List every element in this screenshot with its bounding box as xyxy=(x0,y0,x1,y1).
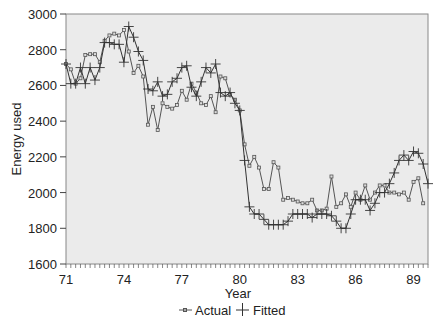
y-axis: 16001800200022002400260028003000 xyxy=(28,7,66,272)
legend-label-actual: Actual xyxy=(195,303,231,318)
y-tick-label: 2000 xyxy=(28,186,57,201)
x-axis: 71747780838689 xyxy=(59,264,428,287)
x-tick-label: 86 xyxy=(348,272,362,287)
y-tick-label: 3000 xyxy=(28,7,57,22)
y-tick-label: 1600 xyxy=(28,257,57,272)
x-tick-label: 83 xyxy=(290,272,304,287)
y-tick-label: 1800 xyxy=(28,221,57,236)
energy-chart: 16001800200022002400260028003000 7174778… xyxy=(0,0,440,325)
y-axis-label: Energy used xyxy=(9,103,24,176)
legend-item-actual: Actual xyxy=(179,303,231,318)
x-tick-label: 89 xyxy=(406,272,420,287)
y-tick-label: 2800 xyxy=(28,43,57,58)
plot-area xyxy=(66,14,428,264)
x-tick-label: 80 xyxy=(233,272,247,287)
y-tick-label: 2600 xyxy=(28,78,57,93)
y-tick-label: 2200 xyxy=(28,150,57,165)
legend-item-fitted: Fitted xyxy=(236,303,286,318)
legend: Actual Fitted xyxy=(179,303,286,318)
legend-label-fitted: Fitted xyxy=(253,303,286,318)
x-tick-label: 71 xyxy=(59,272,73,287)
x-tick-label: 74 xyxy=(117,272,131,287)
y-tick-label: 2400 xyxy=(28,114,57,129)
x-tick-label: 77 xyxy=(175,272,189,287)
x-axis-label: Year xyxy=(225,286,252,301)
